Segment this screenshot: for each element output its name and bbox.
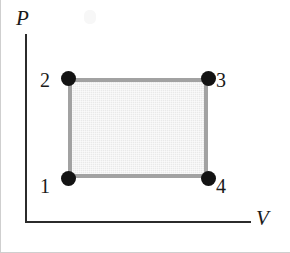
- cycle-rectangle-area: [68, 78, 208, 178]
- state-label-2: 2: [40, 70, 50, 90]
- state-label-1: 1: [40, 176, 50, 196]
- state-label-4: 4: [216, 176, 226, 196]
- state-point-3: [201, 71, 216, 86]
- pressure-axis-label: P: [16, 8, 29, 29]
- state-point-1: [61, 171, 76, 186]
- scan-edge-left: [0, 0, 1, 253]
- scan-artifact-smudge: [84, 10, 96, 24]
- pv-diagram-figure: P V 1 2 3 4: [0, 0, 290, 253]
- state-point-2: [61, 71, 76, 86]
- volume-axis-label: V: [256, 208, 269, 229]
- state-label-3: 3: [216, 70, 226, 90]
- state-point-4: [201, 171, 216, 186]
- volume-axis-line: [25, 221, 251, 223]
- pressure-axis-line: [25, 34, 27, 223]
